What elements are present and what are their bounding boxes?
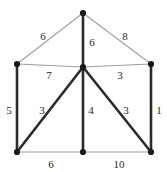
edge-weight-label-bottom-left-to-bottom-mid: 6 (48, 159, 54, 170)
edge-weight-label-bottom-mid-to-bottom-right: 10 (114, 159, 125, 170)
edge-weight-label-left-mid-to-center: 7 (46, 70, 52, 81)
edge-weight-label-apex-to-left-mid: 6 (40, 31, 46, 42)
edge-weight-label-left-mid-to-bottom-left: 5 (6, 105, 12, 116)
graph-center-node (80, 64, 86, 70)
graph-edge-left-mid-to-center (17, 64, 83, 67)
edge-weight-label-center-to-bottom-right: 3 (123, 105, 129, 116)
edge-weight-label-center-to-right-mid: 3 (117, 70, 123, 81)
graph-apex-node (80, 10, 86, 16)
graph-edge-center-to-right-mid (83, 64, 151, 67)
edge-weight-label-center-to-bottom-left: 3 (39, 105, 45, 116)
graph-right-mid-node (148, 61, 154, 67)
graph-bottom-mid-node (80, 149, 86, 155)
edge-layer (17, 13, 151, 152)
weighted-graph-figure: 6867353431610 (0, 0, 167, 172)
edge-weight-label-center-to-bottom-mid: 4 (88, 105, 94, 116)
graph-bottom-right-node (148, 149, 154, 155)
edge-weight-label-apex-to-right-mid: 8 (122, 31, 128, 42)
edge-weight-label-right-mid-to-bottom-right: 1 (156, 105, 162, 116)
graph-bottom-left-node (14, 149, 20, 155)
edge-weight-label-apex-to-center: 6 (89, 37, 95, 48)
graph-left-mid-node (14, 61, 20, 67)
graph-edge-apex-to-left-mid (17, 13, 83, 64)
graph-canvas (0, 0, 167, 172)
